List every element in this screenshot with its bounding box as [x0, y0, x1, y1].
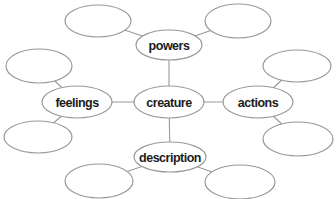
node-blank-right-upper	[263, 50, 331, 82]
node-blank-top-left	[65, 5, 131, 37]
node-actions: actions	[223, 86, 293, 118]
node-blank-left-lower	[4, 121, 72, 153]
node-ellipse-blank-top-left	[65, 5, 131, 37]
node-blank-right-lower	[263, 122, 333, 156]
node-blank-left-upper	[6, 49, 72, 83]
node-powers: powers	[136, 30, 202, 60]
node-ellipse-blank-right-upper	[263, 50, 331, 82]
node-label-powers: powers	[149, 39, 190, 53]
creature-concept-map: creaturepowersfeelingsactionsdescription	[0, 0, 336, 199]
diagram-canvas: creaturepowersfeelingsactionsdescription	[0, 0, 336, 199]
node-label-feelings: feelings	[55, 96, 99, 110]
node-ellipse-blank-right-lower	[263, 122, 333, 156]
node-blank-top-right	[205, 4, 271, 38]
node-ellipse-blank-bottom-right	[205, 165, 275, 199]
node-ellipse-blank-left-upper	[6, 49, 72, 83]
node-label-actions: actions	[238, 96, 279, 110]
node-feelings: feelings	[42, 86, 112, 118]
node-blank-bottom-right	[205, 165, 275, 199]
node-ellipse-blank-top-right	[205, 4, 271, 38]
node-label-description: description	[139, 151, 201, 165]
node-blank-bottom-left	[65, 164, 133, 198]
node-ellipse-blank-left-lower	[4, 121, 72, 153]
node-ellipse-blank-bottom-left	[65, 164, 133, 198]
node-label-creature: creature	[146, 96, 192, 110]
node-description: description	[134, 142, 206, 172]
node-creature: creature	[134, 86, 204, 118]
